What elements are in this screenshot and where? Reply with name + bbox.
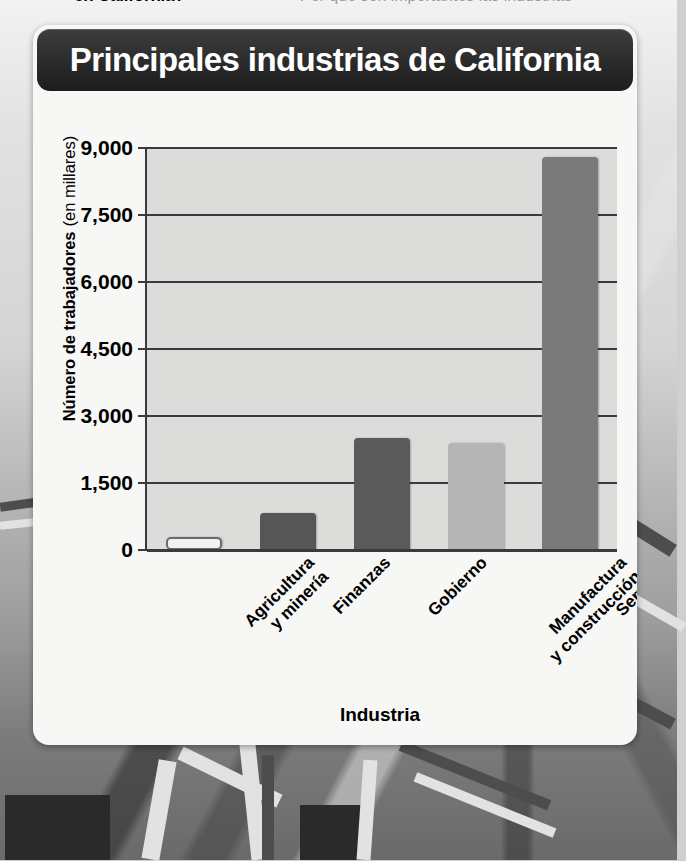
y-axis-tick (138, 549, 147, 551)
bar-finanzas[interactable] (260, 513, 316, 550)
x-axis-label-finanzas: Finanzas (329, 553, 394, 618)
page-caption-partial: en California? (74, 0, 185, 6)
photo-beam (141, 759, 176, 861)
y-axis-tick-label: 3,000 (80, 404, 133, 428)
y-axis-tick (138, 415, 147, 417)
x-axis-baseline (147, 549, 617, 552)
y-axis-tick-label: 4,500 (80, 337, 133, 361)
x-axis-label-line: Finanzas (329, 553, 394, 618)
plot-wrapper: Número de trabajadores(en millares) 01,5… (33, 91, 637, 745)
bar-agricultura-y-miner-a[interactable] (166, 537, 222, 550)
x-axis-label-gobierno: Gobierno (424, 553, 491, 620)
chart-title-bar: Principales industrias de California (37, 29, 633, 91)
bar-servicios[interactable] (542, 157, 598, 550)
x-axis-label-line: Gobierno (424, 553, 491, 620)
chart-card: Principales industrias de California Núm… (33, 25, 637, 745)
y-axis-tick (138, 348, 147, 350)
y-axis-tick (138, 214, 147, 216)
x-axis-label-agricultura-y-miner-a: Agriculturay minería (241, 553, 333, 645)
plot-area: 01,5003,0004,5006,0007,5009,000 (145, 148, 617, 550)
photo-beam (357, 760, 378, 861)
photo-shadow (5, 795, 110, 860)
y-axis-tick (138, 147, 147, 149)
y-axis-title: Número de trabajadores(en millares) (60, 114, 79, 444)
y-axis-tick-label: 9,000 (80, 136, 133, 160)
bar-gobierno[interactable] (354, 438, 410, 550)
x-axis-labels-group: Agriculturay mineríaFinanzasGobiernoManu… (145, 553, 615, 703)
x-axis-title: Industria (145, 704, 615, 726)
y-axis-tick-label: 1,500 (80, 471, 133, 495)
y-axis-tick (138, 482, 147, 484)
y-axis-title-bold: Número de trabajadores (60, 231, 78, 421)
y-axis-title-unit: (en millares) (60, 136, 78, 227)
chart-title: Principales industrias de California (70, 41, 600, 79)
y-axis-tick-label: 6,000 (80, 270, 133, 294)
bars-group (147, 148, 617, 550)
y-axis-tick-label: 7,500 (80, 203, 133, 227)
y-axis-tick-label: 0 (121, 538, 133, 562)
page-caption-ghost: Por qué son importantes las industrias (300, 0, 572, 5)
y-axis-tick (138, 281, 147, 283)
photo-beam (0, 518, 34, 530)
photo-beam (262, 755, 274, 860)
bar-manufactura-y-construcci-n[interactable] (448, 443, 504, 550)
